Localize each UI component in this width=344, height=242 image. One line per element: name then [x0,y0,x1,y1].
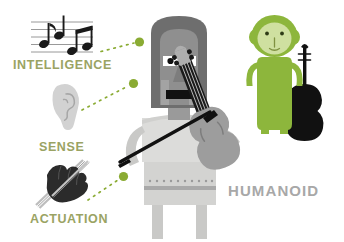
connector-intelligence [101,37,144,51]
label-actuation: ACTUATION [30,213,108,226]
illustration-artwork [0,0,344,242]
label-sense: SENSE [39,141,84,154]
music-notes-icon [31,16,93,57]
gloved-hand-icon [36,160,90,208]
label-humanoid: HUMANOID [228,183,319,198]
connector-sense [82,79,138,110]
illustration-canvas: INTELLIGENCE SENSE ACTUATION HUMANOID [0,0,344,242]
label-intelligence: INTELLIGENCE [13,59,112,72]
ear-icon [52,84,79,130]
connector-actuation [88,172,128,200]
